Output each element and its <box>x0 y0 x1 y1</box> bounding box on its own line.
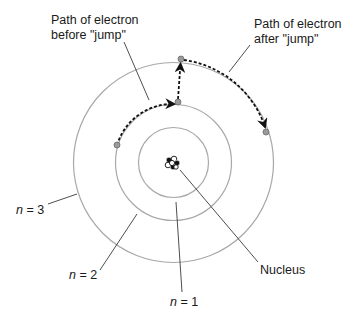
leader-n2 <box>100 214 137 270</box>
label-n3-variable: n <box>16 203 23 217</box>
electron-start <box>114 142 120 148</box>
label-path-before-line1: Path of electron <box>51 13 139 28</box>
leader-n3 <box>48 194 77 204</box>
bohr-atom-diagram <box>0 0 355 333</box>
path-before-jump <box>117 104 174 145</box>
path-after-jump <box>184 60 265 127</box>
leader-before-jump <box>124 42 149 100</box>
label-path-before-line2: before "jump" <box>51 28 139 43</box>
nucleus-icon <box>165 156 180 170</box>
label-n2-variable: n <box>69 268 76 282</box>
label-n1-value: = 1 <box>177 295 198 309</box>
label-n2-value: = 2 <box>76 268 97 282</box>
label-n1: n = 1 <box>170 295 198 310</box>
path-jump <box>178 64 181 99</box>
leader-nucleus <box>180 170 258 262</box>
electron-landing-point <box>178 56 184 62</box>
electron-end <box>263 129 269 135</box>
label-n1-variable: n <box>170 295 177 309</box>
label-path-before-jump: Path of electron before "jump" <box>51 13 139 43</box>
leader-n1 <box>176 202 182 292</box>
label-path-after-line2: after "jump" <box>254 32 342 47</box>
label-n3: n = 3 <box>16 203 44 218</box>
label-n2: n = 2 <box>69 268 97 283</box>
label-n3-value: = 3 <box>23 203 44 217</box>
electron-jump-point <box>175 99 181 105</box>
label-nucleus-text: Nucleus <box>260 263 305 277</box>
leader-after-jump <box>229 45 250 72</box>
label-path-after-jump: Path of electron after "jump" <box>254 17 342 47</box>
label-nucleus: Nucleus <box>260 263 305 278</box>
label-path-after-line1: Path of electron <box>254 17 342 32</box>
